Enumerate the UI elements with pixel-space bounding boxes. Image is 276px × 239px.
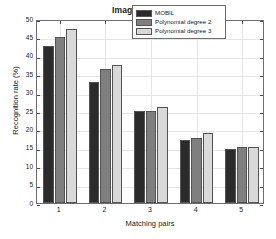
y-tick-label: 10 [3, 164, 33, 171]
legend-item[interactable]: Polynomial degree 2 [136, 18, 222, 26]
x-axis-tick-labels: 12345 [36, 206, 264, 218]
tick-mark [260, 113, 263, 114]
tick-mark [37, 76, 40, 77]
bar [112, 65, 123, 203]
bar [100, 69, 111, 203]
tick-mark [260, 150, 263, 151]
legend-label: MOBIL [155, 10, 174, 16]
legend-item[interactable]: MOBIL [136, 9, 222, 17]
legend-label: Polynomial degree 3 [155, 28, 211, 34]
bar [180, 140, 191, 203]
tick-mark [260, 131, 263, 132]
tick-mark [260, 95, 263, 96]
bar [146, 111, 157, 203]
bar [134, 111, 145, 203]
x-axis-title: Matching pairs [36, 219, 264, 228]
x-tick-label: 1 [46, 206, 72, 213]
x-tick-label: 2 [91, 206, 117, 213]
legend-swatch [136, 10, 152, 17]
bar [237, 147, 248, 203]
y-tick-label: 5 [3, 182, 33, 189]
tick-mark [37, 187, 40, 188]
tick-mark [105, 21, 106, 24]
y-tick-label: 0 [3, 201, 33, 208]
tick-mark [37, 95, 40, 96]
bar [66, 29, 77, 203]
y-tick-label: 50 [3, 17, 33, 24]
tick-mark [242, 21, 243, 24]
chart-legend: MOBILPolynomial degree 2Polynomial degre… [132, 5, 226, 39]
tick-mark [260, 187, 263, 188]
bar [43, 46, 54, 203]
x-tick-label: 4 [183, 206, 209, 213]
plot-area [36, 20, 264, 204]
tick-mark [260, 168, 263, 169]
tick-mark [60, 21, 61, 24]
x-tick-label: 5 [228, 206, 254, 213]
tick-mark [37, 168, 40, 169]
bar [225, 149, 236, 203]
legend-swatch [136, 28, 152, 35]
y-axis-title: Recognition rate (%) [11, 41, 20, 161]
bar [55, 37, 66, 203]
tick-mark [37, 39, 40, 40]
tick-mark [37, 113, 40, 114]
bar [191, 138, 202, 204]
legend-swatch [136, 19, 152, 26]
bar [248, 147, 259, 203]
bar [89, 82, 100, 203]
chart-figure: Image Blur (Trees) 05101520253035404550 … [0, 0, 276, 239]
tick-mark [260, 39, 263, 40]
x-tick-label: 3 [137, 206, 163, 213]
tick-mark [260, 21, 263, 22]
tick-mark [260, 76, 263, 77]
bar [157, 107, 168, 203]
tick-mark [37, 21, 40, 22]
tick-mark [37, 131, 40, 132]
tick-mark [37, 58, 40, 59]
legend-item[interactable]: Polynomial degree 3 [136, 27, 222, 35]
bar [203, 133, 214, 203]
legend-label: Polynomial degree 2 [155, 19, 211, 25]
tick-mark [260, 58, 263, 59]
tick-mark [37, 150, 40, 151]
